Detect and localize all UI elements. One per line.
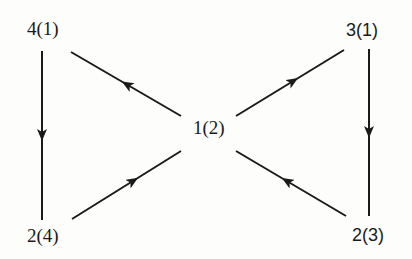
- edge-2-3-to-1-2: [236, 151, 346, 216]
- node-4-1: 4(1): [27, 19, 59, 38]
- node-2-4: 2(4): [27, 226, 59, 245]
- diagram-canvas: 4(1) 3(1) 1(2) 2(4) 2(3): [0, 0, 412, 259]
- edge-1-2-to-3-1: [236, 50, 344, 116]
- node-1-2: 1(2): [193, 118, 225, 137]
- edge-1-2-to-4-1: [71, 52, 181, 116]
- node-3-1: 3(1): [346, 21, 378, 39]
- edge-2-4-to-1-2: [72, 151, 181, 219]
- node-2-3: 2(3): [352, 226, 384, 244]
